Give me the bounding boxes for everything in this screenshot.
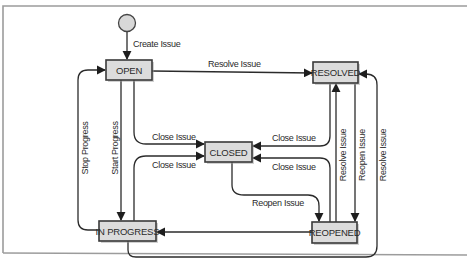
edge-label-resolved-reopen: Reopen Issue [357, 129, 367, 181]
edge-label-start-progress: Start Progress [110, 121, 120, 175]
edge-label-inprogress-resolve: Resolve Issue [378, 128, 388, 181]
edge-label-open-close: Close Issue [152, 132, 196, 142]
edge-label-stop-progress: Stop Progress [80, 121, 90, 175]
edge-label-closed-reopen: Reopen Issue [252, 198, 304, 208]
edge-label-open-resolve: Resolve Issue [208, 59, 261, 69]
state-in-progress: IN PROGRESS [96, 221, 160, 243]
edge-label-reopened-resolve: Resolve Issue [338, 128, 348, 181]
state-label-reopened: REOPENED [309, 227, 361, 238]
edge-label-resolved-close: Close Issue [272, 133, 316, 143]
edge-label-create-issue: Create Issue [133, 39, 181, 49]
state-open: OPEN [106, 60, 154, 82]
edge-open-to-resolved [152, 71, 312, 73]
figure-frame [3, 6, 467, 253]
start-node-circle [119, 15, 136, 32]
state-closed: CLOSED [205, 142, 254, 164]
edge-label-reopened-close: Close Issue [272, 162, 316, 172]
figure-frame-bottom [3, 253, 467, 255]
state-resolved: RESOLVED [311, 62, 361, 85]
state-label-in-progress: IN PROGRESS [96, 226, 160, 237]
state-label-closed: CLOSED [210, 147, 248, 158]
issue-workflow-diagram: Create Issue Resolve Issue Close Issue S… [0, 0, 467, 270]
state-reopened: REOPENED [309, 222, 361, 245]
state-label-open: OPEN [116, 65, 142, 76]
state-label-resolved: RESOLVED [311, 67, 361, 78]
edge-label-inprogress-close: Close Issue [152, 160, 196, 170]
